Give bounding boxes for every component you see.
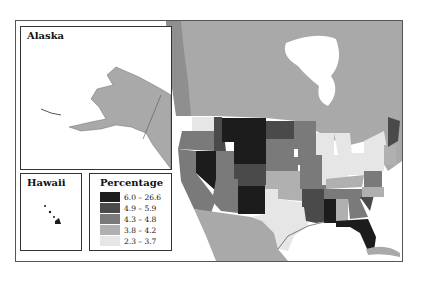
state-indiana bbox=[336, 155, 348, 179]
state-new-england bbox=[384, 145, 396, 165]
hawaii-title: Hawaii bbox=[27, 177, 66, 188]
legend-label: 4.3 – 4.8 bbox=[124, 215, 156, 224]
state-arizona bbox=[212, 179, 238, 213]
legend-item: 4.9 – 5.9 bbox=[100, 203, 156, 213]
state-arkansas bbox=[302, 189, 324, 207]
state-pennsylvania bbox=[364, 155, 384, 171]
legend-item: 6.0 – 26.6 bbox=[100, 192, 161, 202]
state-oregon bbox=[178, 131, 216, 151]
state-wyoming bbox=[234, 142, 266, 164]
legend-swatch bbox=[100, 203, 120, 213]
state-north-carolina bbox=[362, 187, 384, 197]
state-florida bbox=[336, 219, 376, 251]
state-ohio bbox=[348, 153, 364, 175]
state-washington bbox=[192, 117, 214, 131]
state-minnesota bbox=[294, 121, 316, 149]
state-utah bbox=[216, 151, 234, 179]
legend-swatch bbox=[100, 225, 120, 235]
legend-swatch bbox=[100, 192, 120, 202]
state-tennessee bbox=[324, 189, 364, 199]
map-frame: Alaska Hawaii Percentage 6.0 – 26.6 4.9 … bbox=[15, 20, 403, 262]
state-wisconsin bbox=[316, 133, 334, 155]
hawaii-inset: Hawaii bbox=[20, 173, 82, 251]
cuba-island bbox=[366, 247, 400, 257]
state-mississippi bbox=[324, 199, 336, 223]
state-kansas bbox=[266, 171, 300, 185]
state-south-dakota bbox=[266, 139, 294, 157]
state-nebraska bbox=[266, 157, 298, 171]
alaska-shape bbox=[21, 27, 171, 169]
state-michigan bbox=[334, 133, 352, 155]
alaska-inset: Alaska bbox=[20, 26, 172, 170]
alaska-title: Alaska bbox=[27, 30, 64, 41]
legend-item: 4.3 – 4.8 bbox=[100, 214, 156, 224]
state-alabama bbox=[336, 199, 348, 221]
legend: Percentage 6.0 – 26.6 4.9 – 5.9 4.3 – 4.… bbox=[89, 173, 172, 251]
legend-title: Percentage bbox=[100, 177, 163, 188]
legend-label: 6.0 – 26.6 bbox=[124, 193, 161, 202]
state-colorado bbox=[234, 164, 266, 186]
legend-swatch bbox=[100, 236, 120, 246]
legend-label: 4.9 – 5.9 bbox=[124, 204, 156, 213]
state-new-mexico bbox=[238, 186, 265, 214]
legend-swatch bbox=[100, 214, 120, 224]
legend-label: 2.3 – 3.7 bbox=[124, 237, 156, 246]
legend-item: 3.8 – 4.2 bbox=[100, 225, 156, 235]
legend-item: 2.3 – 3.7 bbox=[100, 236, 156, 246]
state-north-dakota bbox=[266, 121, 294, 139]
state-montana bbox=[222, 118, 266, 142]
legend-label: 3.8 – 4.2 bbox=[124, 226, 156, 235]
state-virginia bbox=[364, 171, 382, 187]
